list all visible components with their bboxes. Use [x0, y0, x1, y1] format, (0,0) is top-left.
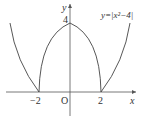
tick-label-y-4: 4 [63, 15, 68, 25]
tick-label-x-2: 2 [98, 96, 103, 106]
curve-left-arm [10, 23, 39, 92]
tick-label-x-neg2: −2 [30, 96, 41, 106]
function-label: y=|x²−4| [101, 11, 133, 20]
origin-label: O [61, 96, 68, 106]
x-axis-label: x [130, 96, 134, 106]
curve-right-arm [101, 23, 130, 92]
y-axis-label: y [62, 3, 66, 13]
